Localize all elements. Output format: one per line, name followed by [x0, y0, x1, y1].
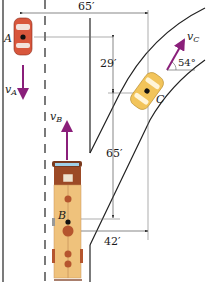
dim-label-65-top: 65′	[78, 0, 95, 13]
car-a	[14, 18, 32, 55]
kinematics-diagram: 65′ 29′ 65′ 42′ A vA C vC 54° vB	[0, 0, 207, 296]
velocity-label-a: vA	[5, 83, 17, 97]
dim-label-42: 42′	[104, 235, 121, 248]
label-b: B	[57, 209, 66, 222]
angle-arc	[172, 62, 176, 70]
dim-label-65-lower: 65′	[106, 147, 123, 160]
velocity-label-b: vB	[50, 110, 62, 124]
label-a: A	[3, 32, 12, 45]
angle-label: 54°	[178, 57, 196, 68]
dim-label-29: 29′	[100, 57, 117, 70]
bus-b	[52, 161, 83, 280]
label-c: C	[156, 93, 165, 106]
velocity-label-c: vC	[187, 30, 199, 44]
